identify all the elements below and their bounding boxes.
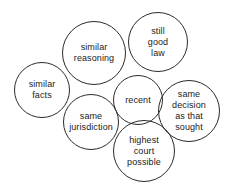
circle-similar-facts[interactable]: similar facts [14, 62, 70, 118]
circle-label-similar-facts: similar facts [27, 79, 58, 101]
circle-label-highest-court-possible: highest court possible [125, 135, 163, 168]
circle-same-jurisdiction[interactable]: same jurisdiction [63, 94, 119, 150]
circle-label-similar-reasoning: similar reasoning [72, 42, 116, 64]
circle-label-recent: recent [123, 95, 153, 106]
circle-label-same-decision-as-that-sought: same decision as that sought [170, 89, 208, 133]
circle-cluster-diagram: similar facts similar reasoning still go… [0, 0, 233, 186]
circle-highest-court-possible[interactable]: highest court possible [113, 120, 175, 182]
circle-similar-reasoning[interactable]: similar reasoning [62, 21, 126, 85]
circle-label-same-jurisdiction: same jurisdiction [67, 111, 115, 133]
circle-still-good-law[interactable]: still good law [128, 12, 188, 72]
circle-recent[interactable]: recent [113, 75, 163, 125]
circle-label-still-good-law: still good law [146, 26, 170, 59]
